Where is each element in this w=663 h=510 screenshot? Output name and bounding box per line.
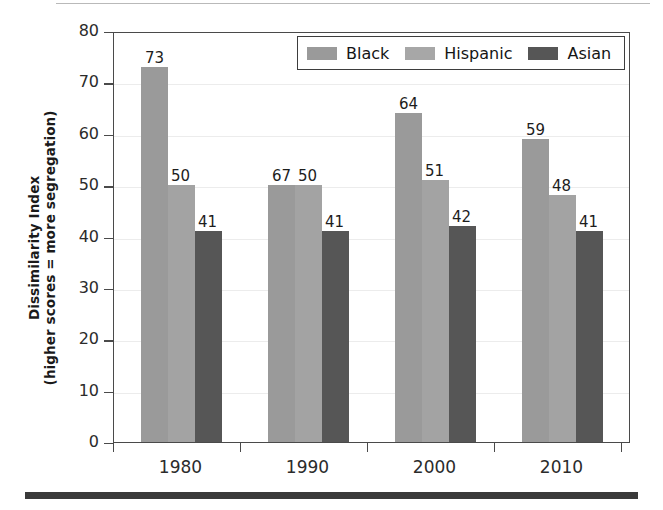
bar-black-1990: [268, 185, 295, 442]
chart-page: Dissimilarity Index (higher scores = mor…: [0, 0, 663, 510]
plot-area: 735041675041645142594841: [113, 32, 630, 443]
legend-swatch-icon: [307, 47, 337, 60]
bar-value-label: 51: [425, 162, 444, 180]
bar-hispanic-2010: [549, 195, 576, 442]
chart-legend: BlackHispanicAsian: [297, 36, 625, 70]
y-axis-tick-label: 10: [79, 381, 99, 400]
y-axis-tick-mark: [104, 289, 113, 290]
bar-value-label: 50: [171, 167, 190, 185]
x-axis-tick-mark: [240, 443, 241, 452]
top-divider-rule: [56, 3, 650, 4]
x-axis-tick-label-1990: 1990: [286, 457, 329, 477]
x-axis-tick-mark: [494, 443, 495, 452]
legend-item-hispanic[interactable]: Hispanic: [405, 44, 512, 63]
y-axis-tick-mark: [104, 443, 113, 444]
bar-value-label: 59: [526, 121, 545, 139]
y-axis-tick-mark: [104, 238, 113, 239]
y-axis: 01020304050607080: [0, 32, 113, 443]
plot-inner: 735041675041645142594841: [114, 33, 629, 442]
bottom-divider-rule: [25, 492, 638, 499]
y-axis-tick-mark: [104, 32, 113, 33]
bar-hispanic-2000: [422, 180, 449, 442]
x-axis-tick-label-1980: 1980: [159, 457, 202, 477]
x-axis: 1980199020002010: [113, 443, 630, 493]
bar-value-label: 42: [452, 208, 471, 226]
bar-hispanic-1990: [295, 185, 322, 442]
y-axis-tick-label: 30: [79, 278, 99, 297]
y-axis-tick-label: 50: [79, 175, 99, 194]
x-axis-tick-mark: [113, 443, 114, 452]
bar-value-label: 73: [145, 49, 164, 67]
legend-swatch-icon: [528, 47, 558, 60]
legend-item-asian[interactable]: Asian: [528, 44, 611, 63]
bar-value-label: 41: [198, 213, 217, 231]
y-axis-tick-label: 80: [79, 21, 99, 40]
x-axis-tick-label-2000: 2000: [413, 457, 456, 477]
y-axis-tick-mark: [104, 392, 113, 393]
y-axis-tick-label: 20: [79, 329, 99, 348]
bar-black-2010: [522, 139, 549, 442]
legend-swatch-icon: [405, 47, 435, 60]
bar-black-1980: [141, 67, 168, 442]
bar-asian-1990: [322, 231, 349, 442]
bar-value-label: 41: [579, 213, 598, 231]
x-axis-tick-mark: [621, 443, 622, 452]
x-axis-tick-mark: [367, 443, 368, 452]
y-axis-tick-mark: [104, 186, 113, 187]
legend-label: Hispanic: [444, 44, 512, 63]
bar-value-label: 48: [552, 177, 571, 195]
y-axis-tick-mark: [104, 135, 113, 136]
y-axis-tick-label: 40: [79, 227, 99, 246]
gridline: [114, 84, 629, 85]
bar-value-label: 41: [325, 213, 344, 231]
y-axis-tick-label: 0: [89, 432, 99, 451]
bar-asian-2000: [449, 226, 476, 442]
legend-item-black[interactable]: Black: [307, 44, 389, 63]
legend-label: Black: [346, 44, 389, 63]
bar-asian-1980: [195, 231, 222, 442]
bar-hispanic-1980: [168, 185, 195, 442]
gridline: [114, 136, 629, 137]
bar-value-label: 67: [272, 167, 291, 185]
y-axis-tick-mark: [104, 83, 113, 84]
legend-label: Asian: [567, 44, 611, 63]
bar-value-label: 64: [399, 95, 418, 113]
bar-black-2000: [395, 113, 422, 442]
bar-value-label: 50: [298, 167, 317, 185]
y-axis-tick-mark: [104, 340, 113, 341]
bar-asian-2010: [576, 231, 603, 442]
x-axis-tick-label-2010: 2010: [540, 457, 583, 477]
y-axis-tick-label: 60: [79, 124, 99, 143]
y-axis-tick-label: 70: [79, 72, 99, 91]
